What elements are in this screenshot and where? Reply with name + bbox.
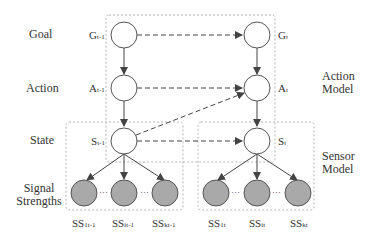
label-g-cur: Gt	[278, 29, 288, 43]
goal-node-cur	[244, 22, 270, 48]
row-label-state: State	[30, 134, 54, 147]
label-ss-i-cur: SSit	[249, 217, 265, 231]
sensor-model-line2: Model	[322, 163, 355, 176]
label-a-cur: At	[278, 82, 288, 96]
signal-node-cur-k	[285, 180, 311, 206]
action-node-prev	[111, 75, 137, 101]
action-node-cur	[244, 75, 270, 101]
label-ss-k-cur: SSkt	[290, 217, 308, 231]
signal-node-cur-i	[244, 180, 270, 206]
dbn-diagram: Goal Action State Signal Strengths Actio…	[0, 0, 372, 239]
signal-node-prev-i	[111, 180, 137, 206]
label-ss-1-prev: SS1t-1	[72, 217, 96, 231]
label-ss-k-prev: SSkt-1	[152, 217, 176, 231]
signal-node-prev-1	[71, 180, 97, 206]
goal-node-prev	[111, 22, 137, 48]
state-node-cur	[244, 128, 270, 154]
ellipsis-cur-2: ···	[272, 186, 281, 198]
label-a-prev: At-1	[89, 82, 105, 96]
row-label-goal: Goal	[29, 28, 52, 41]
ellipsis-cur-1: ···	[231, 186, 240, 198]
action-model-line2: Model	[322, 83, 355, 96]
row-label-signal-line2: Strengths	[14, 195, 64, 208]
row-label-action: Action	[26, 82, 59, 95]
label-ss-i-prev: SSit-1	[112, 217, 134, 231]
ellipsis-prev-1: ···	[99, 186, 108, 198]
ellipsis-prev-2: ···	[140, 186, 149, 198]
label-ss-1-cur: SS1t	[208, 217, 226, 231]
row-label-signal-strengths: Signal Strengths	[14, 182, 64, 208]
sensor-model-label: Sensor Model	[322, 150, 355, 176]
action-model-label: Action Model	[322, 70, 355, 96]
label-g-prev: Gt-1	[89, 29, 105, 43]
state-node-prev	[111, 128, 137, 154]
label-s-cur: St	[278, 135, 286, 149]
signal-node-prev-k	[152, 180, 178, 206]
label-s-prev: St-1	[91, 135, 105, 149]
signal-node-cur-1	[203, 180, 229, 206]
